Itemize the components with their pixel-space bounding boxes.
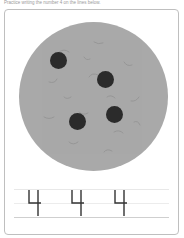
chocolate-chip bbox=[69, 113, 86, 130]
chocolate-chip bbox=[106, 106, 123, 123]
chocolate-chip bbox=[50, 52, 67, 69]
cookie-illustration bbox=[19, 22, 168, 171]
chocolate-chip bbox=[97, 71, 114, 88]
traced-number-four bbox=[113, 189, 129, 217]
traced-number-four bbox=[70, 189, 86, 217]
traced-number-four bbox=[27, 189, 43, 217]
instruction-text: Practice writing the number 4 on the lin… bbox=[4, 0, 101, 5]
cookie-texture-icon bbox=[19, 22, 168, 171]
guide-line-baseline bbox=[14, 217, 169, 218]
